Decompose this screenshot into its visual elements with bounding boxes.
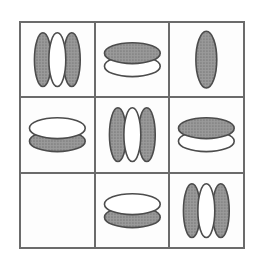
horizontal-ellipse-upper-unfilled <box>104 193 160 214</box>
matrix-cell-r0c2 <box>170 23 243 96</box>
matrix-grid <box>19 21 245 249</box>
horizontal-ellipse-pair-graphic <box>170 98 243 171</box>
vertical-ellipse-single-shaded <box>196 31 217 88</box>
vertical-ellipse-middle-unfilled <box>49 33 66 87</box>
vertical-ellipse-middle-unfilled <box>124 108 141 162</box>
vertical-ellipse-triplet-graphic <box>21 23 94 96</box>
horizontal-ellipse-pair-graphic <box>96 23 169 96</box>
horizontal-ellipse-upper-shaded <box>104 43 160 64</box>
horizontal-ellipse-pair-graphic <box>21 98 94 171</box>
matrix-cell-r1c2 <box>170 98 243 171</box>
vertical-ellipse-middle-unfilled <box>198 183 215 237</box>
matrix-cell-r0c0 <box>21 23 94 96</box>
vertical-ellipse-triplet-graphic <box>96 98 169 171</box>
matrix-cell-r1c1 <box>96 98 169 171</box>
matrix-cell-r2c1 <box>96 174 169 247</box>
horizontal-ellipse-upper-shaded <box>179 118 235 139</box>
matrix-cell-r2c2 <box>170 174 243 247</box>
vertical-ellipse-single-graphic <box>170 23 243 96</box>
matrix-cell-r0c1 <box>96 23 169 96</box>
puzzle-figure <box>0 0 262 265</box>
vertical-ellipse-triplet-graphic <box>170 174 243 247</box>
horizontal-ellipse-upper-unfilled <box>29 118 85 139</box>
matrix-cell-r1c0 <box>21 98 94 171</box>
horizontal-ellipse-pair-graphic <box>96 174 169 247</box>
matrix-cell-r2c0-empty <box>21 174 94 247</box>
